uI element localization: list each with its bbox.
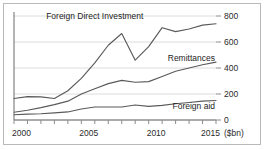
series-labels: Foreign Direct InvestmentRemittancesFore…	[46, 11, 215, 111]
unit-label: ($bn)	[224, 128, 244, 138]
y-tick-label: 200	[224, 89, 238, 99]
x-ticks	[14, 120, 216, 124]
x-tick-label: 2010	[147, 128, 166, 138]
x-tick-label: 2015	[201, 128, 220, 138]
fdi-label: Foreign Direct Investment	[46, 11, 144, 21]
y-tick-label: 800	[224, 11, 238, 21]
x-tick-labels: 2000200520102015	[12, 128, 220, 138]
y-tick-label: 400	[224, 63, 238, 73]
line-chart: 0200400600800 2000200520102015 Foreign D…	[4, 4, 262, 146]
unit-label-group: ($bn)	[224, 128, 244, 138]
y-tick-label: 0	[224, 115, 229, 125]
foreign-aid-label: Foreign aid	[172, 101, 215, 111]
chart-frame: 0200400600800 2000200520102015 Foreign D…	[3, 3, 261, 145]
y-tick-label: 600	[224, 37, 238, 47]
x-tick-label: 2000	[12, 128, 31, 138]
y-tick-labels: 0200400600800	[224, 11, 238, 125]
remittances-label: Remittances	[168, 53, 215, 63]
x-tick-label: 2005	[79, 128, 98, 138]
